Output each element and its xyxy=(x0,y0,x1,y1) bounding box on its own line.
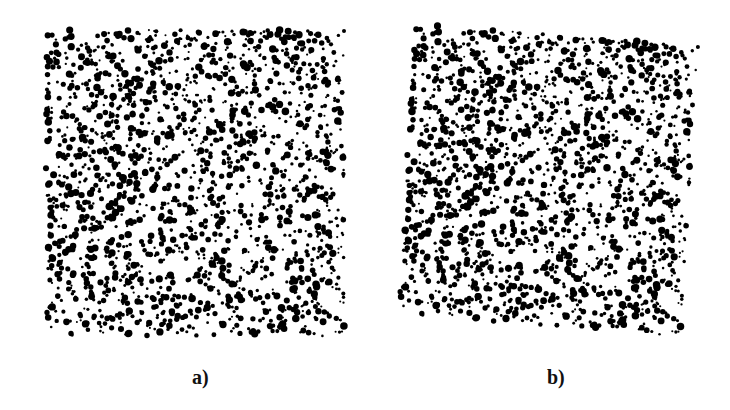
panel-label-a: a) xyxy=(192,366,209,389)
speckle-pattern-a xyxy=(40,22,350,342)
speckle-panel-b xyxy=(390,14,715,344)
panel-label-b: b) xyxy=(547,366,565,389)
speckle-pattern-b xyxy=(390,14,715,344)
speckle-panel-a xyxy=(40,22,350,342)
